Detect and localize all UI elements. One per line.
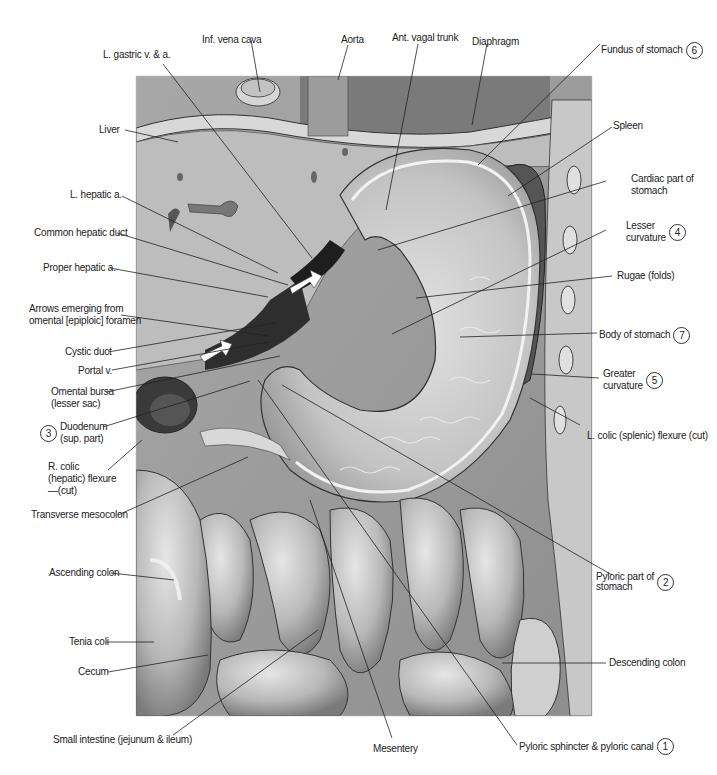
label-omental-bursa: Omental bursa(lesser sac)	[51, 386, 114, 410]
number-badge-5: 5	[646, 372, 663, 389]
label-cystic-duct: Cystic duct	[65, 346, 112, 358]
number-badge-7: 7	[673, 327, 690, 344]
anatomy-figure: Inf. vena cava Aorta Ant. vagal trunk Di…	[0, 0, 717, 775]
label-rcolic-line-3: —(cut)	[48, 485, 116, 497]
number-badge-3: 3	[40, 425, 57, 442]
label-diaphragm: Diaphragm	[472, 36, 519, 48]
label-cardiac-line-2: stomach	[631, 185, 694, 197]
label-greater-curvature: Greatercurvature5	[603, 368, 663, 392]
label-arrows-line-2: omental [epiploic] foramen	[29, 315, 141, 327]
label-pyloric-part: Pyloric part of2stomach	[596, 562, 674, 593]
number-badge-1: 1	[657, 738, 674, 755]
label-lesser-curvature: Lessercurvature4	[626, 220, 686, 244]
label-tenia-coli: Tenia coli	[69, 636, 109, 648]
label-body-of-stomach: Body of stomach7	[599, 327, 690, 344]
label-common-hepatic-duct: Common hepatic duct	[34, 227, 127, 239]
label-portal-v: Portal v.	[78, 365, 112, 377]
label-ascending-colon: Ascending colon	[49, 567, 119, 579]
label-inf-vena-cava: Inf. vena cava	[202, 34, 261, 46]
label-arrows-omental-foramen: Arrows emerging fromomental [epiploic] f…	[29, 303, 141, 327]
label-descending-colon: Descending colon	[609, 657, 685, 669]
label-r-colic-flexure: R. colic(hepatic) flexure—(cut)	[48, 461, 116, 497]
label-small-intestine: Small intestine (jejunum & ileum)	[53, 734, 192, 746]
label-transverse-mesocolon: Transverse mesocolon	[31, 509, 128, 521]
label-spleen: Spleen	[613, 120, 643, 132]
label-duodenum-line-2: (sup. part)	[60, 433, 107, 445]
label-cecum: Cecum	[78, 666, 109, 678]
label-ant-vagal-trunk: Ant. vagal trunk	[392, 32, 458, 44]
label-bursa-line-2: (lesser sac)	[51, 398, 114, 410]
label-lesser-line-2: curvature	[626, 232, 666, 244]
label-duodenum: 3Duodenum(sup. part)	[40, 421, 107, 445]
label-rugae: Rugae (folds)	[617, 270, 674, 282]
label-mesentery: Mesentery	[373, 743, 418, 755]
label-greater-line-2: curvature	[603, 380, 643, 392]
label-body-text: Body of stomach	[599, 329, 670, 340]
label-arrows-line-1: Arrows emerging from	[29, 303, 141, 315]
label-liver: Liver	[99, 124, 120, 136]
label-fundus-of-stomach: Fundus of stomach6	[601, 42, 703, 59]
label-rcolic-line-1: R. colic	[48, 461, 116, 473]
label-duodenum-line-1: Duodenum	[60, 421, 107, 433]
label-aorta: Aorta	[341, 34, 364, 46]
number-badge-2: 2	[657, 574, 674, 591]
label-rcolic-line-2: (hepatic) flexure	[48, 473, 116, 485]
label-sphincter-text: Pyloric sphincter & pyloric canal	[519, 741, 654, 753]
label-cardiac-part: Cardiac part ofstomach	[631, 173, 694, 197]
number-badge-6: 6	[686, 42, 703, 59]
label-proper-hepatic-a: Proper hepatic a.	[43, 262, 116, 274]
label-l-hepatic-a: L. hepatic a.	[70, 189, 122, 201]
label-l-colic-flexure: L. colic (splenic) flexure (cut)	[587, 430, 708, 442]
number-badge-4: 4	[669, 224, 686, 241]
label-l-gastric-v-a: L. gastric v. & a.	[103, 49, 170, 61]
label-bursa-line-1: Omental bursa	[51, 386, 114, 398]
label-pyloric-sphincter: Pyloric sphincter & pyloric canal1	[519, 738, 674, 755]
label-fundus-text: Fundus of stomach	[601, 44, 683, 55]
label-cardiac-line-1: Cardiac part of	[631, 173, 694, 185]
